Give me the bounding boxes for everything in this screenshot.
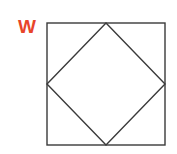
inscribed-diamond	[47, 23, 165, 145]
square-diamond-diagram	[0, 0, 177, 154]
outer-square	[47, 23, 165, 145]
